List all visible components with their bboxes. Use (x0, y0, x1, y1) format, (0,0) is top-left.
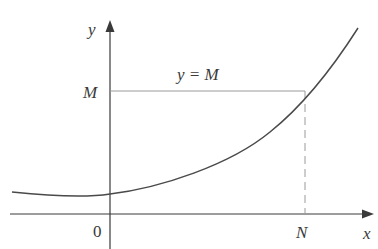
y-equals-m-label: y = M (175, 65, 220, 84)
function-curve (12, 28, 358, 196)
x-axis-arrow-icon (362, 210, 374, 219)
m-value-label: M (82, 83, 98, 102)
n-label: N (295, 223, 309, 242)
diagram-svg: y x 0 M y = M N (0, 0, 378, 249)
x-axis-label: x (362, 224, 371, 243)
origin-label: 0 (93, 222, 102, 241)
diagram-canvas: y x 0 M y = M N (0, 0, 378, 249)
y-axis-label: y (86, 20, 96, 39)
y-axis-arrow-icon (106, 20, 115, 32)
